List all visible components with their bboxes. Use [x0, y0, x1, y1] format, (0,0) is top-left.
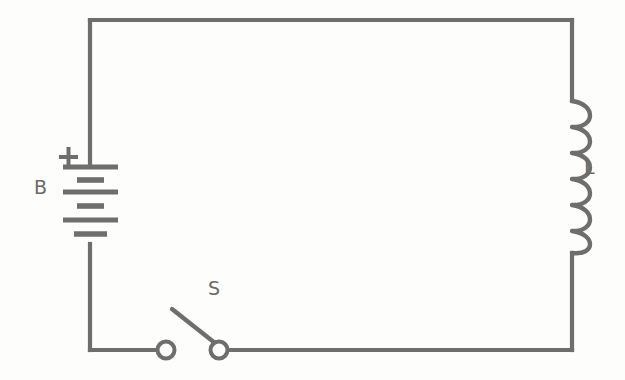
circuit-wires: [90, 20, 572, 350]
circuit-diagram: B L S: [0, 0, 625, 380]
switch-blade: [172, 309, 220, 347]
label-switch: S: [208, 279, 221, 298]
switch-terminal-left: [158, 342, 175, 359]
label-inductor: L: [584, 158, 595, 177]
circuit-schematic-canvas: [0, 0, 625, 380]
battery-symbol: [63, 167, 118, 234]
switch-symbol: [158, 309, 228, 359]
plus-sign-icon: [59, 147, 78, 167]
label-battery: B: [34, 178, 48, 197]
switch-terminal-right: [211, 342, 228, 359]
